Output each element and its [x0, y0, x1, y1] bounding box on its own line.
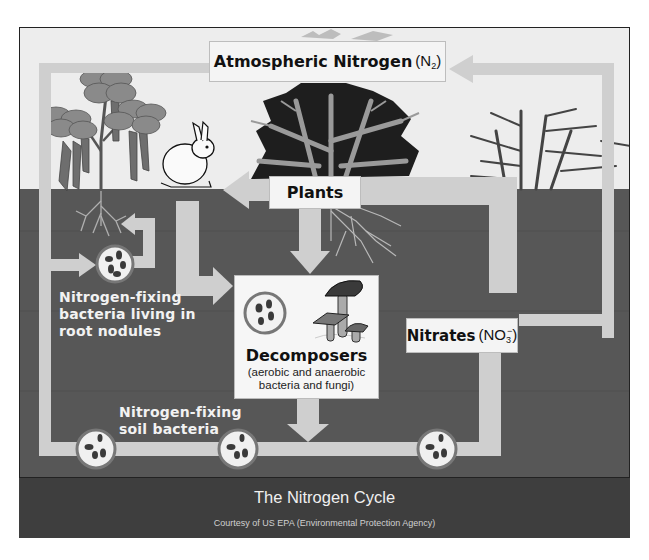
- plants-box: Plants: [269, 176, 361, 209]
- decomposers-illustration: [235, 276, 380, 348]
- bacteria-circle-icon-soil-1: [77, 430, 115, 468]
- arrow-top-left: [39, 63, 211, 73]
- tree-top-icon: [301, 29, 393, 41]
- arrow-right-vertical: [602, 63, 614, 338]
- plants-label: Plants: [287, 183, 344, 202]
- tree-icon: [251, 83, 419, 191]
- atmospheric-nitrogen-box: Atmospheric Nitrogen (N2): [209, 41, 446, 82]
- mushrooms-icon: [313, 281, 368, 342]
- bacteria-circle-icon-nodule: [97, 246, 133, 282]
- decomposers-sublabel: (aerobic and anaerobic bacteria and fung…: [235, 366, 378, 392]
- arrowhead-to-atmosphere: [449, 55, 473, 83]
- diagram-title: The Nitrogen Cycle: [19, 488, 630, 507]
- bacteria-circle-icon-soil-3: [418, 430, 456, 468]
- arrow-plants-down: [299, 209, 321, 254]
- arrow-up-to-nitrates: [479, 351, 501, 456]
- arrow-nitrates-up: [489, 177, 517, 293]
- decomposers-box: Decomposers (aerobic and anaerobic bacte…: [234, 275, 379, 399]
- arrow-left-vertical: [39, 63, 51, 456]
- decomposers-label: Decomposers: [235, 346, 378, 365]
- diagram-scene: [20, 28, 630, 478]
- atmospheric-nitrogen-formula: (N2): [415, 52, 441, 71]
- caption-footer: The Nitrogen Cycle Courtesy of US EPA (E…: [19, 478, 630, 538]
- bean-plant-icon: [41, 70, 166, 191]
- nitrates-formula: (NO3−): [478, 326, 517, 345]
- nitrates-box: Nitrates (NO3−): [406, 318, 518, 353]
- nitrates-label: Nitrates: [407, 327, 476, 345]
- diagram-credit: Courtesy of US EPA (Environmental Protec…: [19, 518, 630, 528]
- arrow-into-nodule: [51, 259, 81, 271]
- rabbit-icon: [161, 122, 214, 187]
- bacteria-circle-icon-decomposers: [245, 293, 285, 333]
- nitrogen-cycle-diagram: Atmospheric Nitrogen (N2) Plants Nitrate…: [19, 27, 630, 478]
- root-nodule-bacteria-label: Nitrogen-fixing bacteria living in root …: [59, 289, 196, 340]
- atmospheric-nitrogen-label: Atmospheric Nitrogen: [214, 52, 412, 71]
- soil-bacteria-label: Nitrogen-fixing soil bacteria: [119, 404, 242, 438]
- arrow-nitrates-right: [519, 314, 614, 326]
- arrow-top-right: [471, 63, 614, 75]
